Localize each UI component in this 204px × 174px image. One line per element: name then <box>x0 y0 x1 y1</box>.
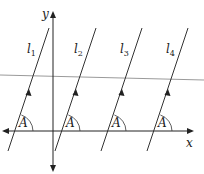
diagram-canvas: y x l1 l2 l3 l4 A A A A <box>0 0 204 174</box>
direction-arrow-icon <box>73 89 79 96</box>
line-label-3: l3 <box>120 42 129 58</box>
direction-arrow-icon <box>165 89 171 96</box>
angle-label-3: A <box>111 116 121 130</box>
x-axis-arrow-right-icon <box>187 128 194 134</box>
line-label-2: l2 <box>74 42 83 58</box>
direction-arrow-icon <box>26 89 32 96</box>
transversal-line <box>0 75 204 80</box>
line-label-1: l1 <box>27 42 36 58</box>
y-axis-arrow-down-icon <box>50 165 56 172</box>
angle-label-1: A <box>18 116 28 130</box>
line-label-4: l4 <box>166 42 175 58</box>
x-axis-label: x <box>186 136 193 150</box>
y-axis-label: y <box>41 7 49 21</box>
angle-label-2: A <box>65 116 75 130</box>
angle-label-4: A <box>157 116 167 130</box>
x-axis-arrow-left-icon <box>2 128 9 134</box>
y-axis-arrow-up-icon <box>50 11 56 18</box>
direction-arrow-icon <box>119 89 125 96</box>
